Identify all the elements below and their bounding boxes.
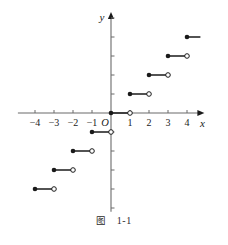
open-endpoint-circle bbox=[52, 187, 57, 192]
x-axis-tick-label: −2 bbox=[68, 117, 79, 128]
open-endpoint-circle bbox=[128, 111, 133, 116]
x-axis-tick-label: 4 bbox=[185, 117, 190, 128]
closed-endpoint-dot bbox=[90, 130, 95, 135]
x-axis-arrow bbox=[197, 110, 204, 116]
open-endpoint-circle bbox=[90, 149, 95, 154]
open-endpoint-circle bbox=[109, 130, 114, 135]
y-axis-label: y bbox=[99, 11, 105, 23]
closed-endpoint-dot bbox=[128, 92, 133, 97]
closed-endpoint-dot bbox=[33, 187, 38, 192]
closed-endpoint-dot bbox=[71, 149, 76, 154]
closed-endpoint-dot bbox=[109, 111, 114, 116]
closed-endpoint-dot bbox=[147, 73, 152, 78]
origin-label: O bbox=[101, 117, 109, 128]
x-axis-label: x bbox=[199, 117, 205, 129]
open-endpoint-circle bbox=[71, 168, 76, 173]
step-function-plot: xyO−4−3−2−11234 bbox=[0, 0, 228, 212]
x-axis-tick-label: 2 bbox=[147, 117, 152, 128]
closed-endpoint-dot bbox=[52, 168, 57, 173]
figure-caption: 图1-1 bbox=[0, 213, 228, 227]
figure-caption-number: 1-1 bbox=[117, 215, 132, 226]
x-axis-tick-label: −1 bbox=[87, 117, 98, 128]
open-endpoint-circle bbox=[185, 54, 190, 59]
figure-container: xyO−4−3−2−11234 图1-1 bbox=[0, 0, 228, 245]
closed-endpoint-dot bbox=[166, 54, 171, 59]
open-endpoint-circle bbox=[147, 92, 152, 97]
open-endpoint-circle bbox=[166, 73, 171, 78]
plot-area: xyO−4−3−2−11234 bbox=[0, 0, 228, 212]
x-axis-tick-label: 3 bbox=[166, 117, 171, 128]
x-axis-tick-label: −3 bbox=[49, 117, 60, 128]
x-axis-tick-label: 1 bbox=[128, 117, 133, 128]
figure-caption-label: 图 bbox=[96, 215, 107, 226]
x-axis-tick-label: −4 bbox=[30, 117, 41, 128]
closed-endpoint-dot bbox=[185, 35, 190, 40]
